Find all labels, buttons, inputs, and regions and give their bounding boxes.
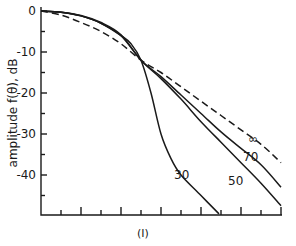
curve-label-infinity: ∞ (248, 132, 258, 146)
y-tick-label: -10 (16, 45, 36, 59)
amplitude-chart: 0-10-20-30-40 amplitude f(θ), dB 305070∞ (0, 0, 296, 246)
axis-lines (41, 7, 282, 215)
curve-label-50: 50 (228, 174, 243, 188)
axes (41, 7, 282, 215)
curve-labels: 305070∞ (174, 132, 258, 188)
y-tick-label: 0 (28, 4, 36, 18)
curves (41, 11, 281, 214)
curve-label-70: 70 (243, 150, 258, 164)
curve-label-30: 30 (174, 168, 189, 182)
y-axis-label: amplitude f(θ), dB (6, 59, 20, 168)
curve-50 (41, 11, 281, 206)
figure-caption: (I) (137, 227, 149, 240)
curve-infinity (41, 11, 281, 163)
y-tick-label: -40 (16, 168, 36, 182)
